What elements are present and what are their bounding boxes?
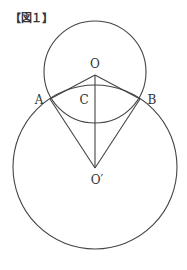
label-o-prime: O′ <box>91 173 104 187</box>
segment-o-b <box>95 75 140 99</box>
label-o: O <box>90 57 100 71</box>
label-b: B <box>148 93 157 107</box>
segment-a-oprime <box>50 99 95 168</box>
label-a: A <box>34 93 44 107</box>
geometry-diagram: O C A B O′ <box>0 0 187 270</box>
label-c: C <box>79 93 88 107</box>
segment-b-oprime <box>95 99 140 168</box>
